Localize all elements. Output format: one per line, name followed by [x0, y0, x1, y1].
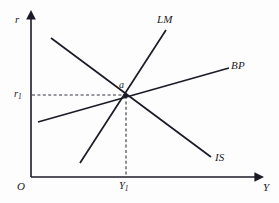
x-axis-label: Y — [263, 182, 269, 193]
y-axis-label: r — [15, 14, 19, 25]
origin-label: O — [17, 181, 25, 192]
y-tick-subscript: 1 — [18, 92, 22, 101]
is-curve — [51, 38, 211, 157]
lm-curve-label: LM — [157, 14, 173, 25]
x-axis-tick-label-y1: Y1 — [119, 181, 129, 192]
equilibrium-point-label: a — [119, 80, 124, 90]
lm-curve — [80, 30, 166, 163]
bp-curve-label: BP — [231, 60, 245, 71]
y-axis-tick-label-r1: r1 — [14, 89, 22, 100]
is-curve-label: IS — [215, 152, 225, 163]
chart-canvas — [0, 0, 279, 203]
x-tick-subscript: 1 — [125, 184, 129, 193]
is-lm-bp-chart: r Y O r1 Y1 LM BP IS a — [0, 0, 279, 203]
equilibrium-point-marker — [123, 93, 127, 97]
